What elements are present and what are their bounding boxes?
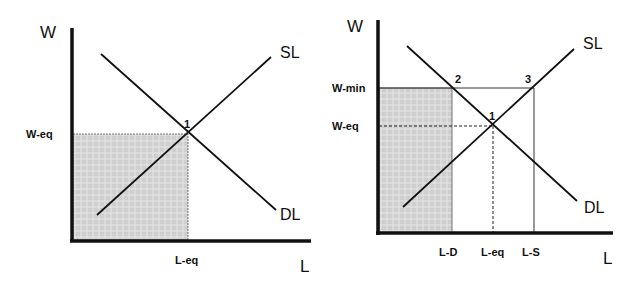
right-panel: W L SL DL W-min W-eq L-D L-eq L-S 1 2 3 (332, 17, 613, 268)
right-weq-tick-label: W-eq (332, 120, 359, 132)
left-y-axis-label: W (40, 23, 56, 42)
left-x-axis-label: L (300, 257, 309, 276)
right-wmin-tick-label: W-min (332, 82, 366, 94)
left-panel: W L SL DL W-eq L-eq 1 (26, 23, 311, 276)
right-point-1-label: 1 (489, 110, 495, 122)
left-leq-tick-label: L-eq (175, 254, 198, 266)
right-supply-label: SL (583, 35, 603, 52)
right-point-2-label: 2 (455, 73, 461, 85)
left-demand-label: DL (280, 206, 301, 223)
right-ld-tick-label: L-D (439, 246, 457, 258)
right-demand-label: DL (584, 199, 605, 216)
left-weq-tick-label: W-eq (26, 128, 53, 140)
right-wage-bill-area (379, 88, 452, 233)
left-supply-label: SL (280, 44, 300, 61)
right-y-axis-label: W (347, 17, 363, 36)
left-point-1-label: 1 (184, 118, 190, 130)
right-leq-tick-label: L-eq (481, 246, 504, 258)
labor-market-diagrams: W L SL DL W-eq L-eq 1 W L SL DL W-min W-… (0, 0, 636, 283)
right-ls-tick-label: L-S (522, 246, 540, 258)
right-x-axis-label: L (603, 249, 612, 268)
left-wage-bill-area (73, 134, 188, 240)
right-point-3-label: 3 (525, 73, 531, 85)
